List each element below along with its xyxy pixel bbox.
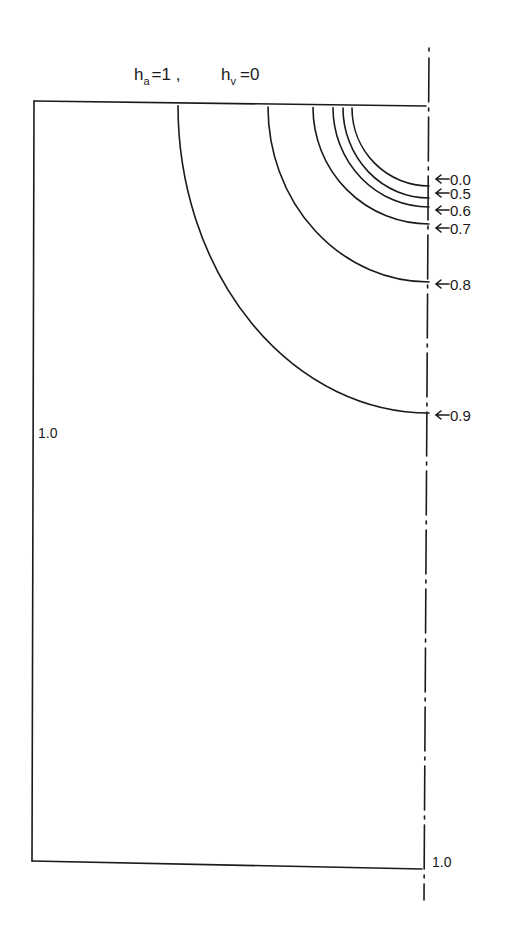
hv-label: hv=0 (221, 65, 259, 87)
arrow-left-icon (436, 280, 449, 288)
top-boundary-line (34, 101, 426, 106)
symmetry-axis (424, 48, 429, 900)
contour-line-0-7 (313, 108, 429, 224)
contour-label: 0.9 (450, 407, 471, 424)
arrow-left-icon (436, 411, 449, 419)
arrow-left-icon (436, 224, 449, 232)
contour-label: 0.7 (450, 220, 471, 237)
bottom-right-boundary-value: 1.0 (432, 854, 452, 870)
contour-label: 0.8 (450, 276, 471, 293)
contour-diagram: ha=1 , hv=0 0.00.50.60.70.80.9 1.0 1.0 (0, 0, 508, 932)
domain-boundary (32, 101, 426, 869)
contour-label: 0.6 (450, 202, 471, 219)
arrow-left-icon (436, 206, 449, 214)
left-boundary-line (32, 101, 34, 861)
contour-label: 0.5 (450, 185, 471, 202)
contour-line-0-0 (352, 108, 429, 186)
contour-line-0-9 (178, 106, 429, 413)
ha-label: ha=1 , (134, 65, 180, 87)
contour-line-0-6 (333, 108, 429, 207)
arrow-left-icon (436, 189, 449, 197)
bottom-boundary-line (32, 861, 422, 869)
arrow-left-icon (436, 175, 449, 183)
left-boundary-value: 1.0 (38, 425, 58, 441)
